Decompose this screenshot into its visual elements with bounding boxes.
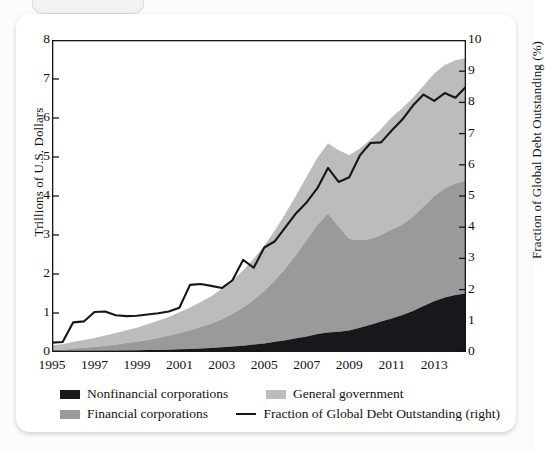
legend-swatch-icon [60,390,80,399]
x-axis-tick-label: 2013 [412,357,456,373]
legend-item-general-government[interactable]: General government [266,386,404,402]
legend-line-icon [236,413,256,415]
plot-area [52,40,466,352]
chart-legend: Nonfinancial corporations General govern… [60,384,500,424]
legend-label: General government [293,386,404,402]
figure-card: Trillions of U.S. Dollars Fraction of Gl… [16,14,516,432]
chart-figure: Trillions of U.S. Dollars Fraction of Gl… [16,14,516,432]
legend-label: Financial corporations [87,406,208,422]
legend-label: Nonfinancial corporations [87,386,228,402]
window-tab-stub[interactable] [32,0,144,14]
legend-item-nonfinancial-corporations[interactable]: Nonfinancial corporations [60,386,266,402]
x-axis-tick-label: 1997 [72,357,116,373]
legend-swatch-icon [266,390,286,399]
legend-row: Nonfinancial corporations General govern… [60,384,500,404]
x-axis-tick-label: 2001 [157,357,201,373]
x-axis-tick-label: 1995 [30,357,74,373]
x-axis-tick-label: 2011 [370,357,414,373]
legend-swatch-icon [60,410,80,419]
x-axis-tick-label: 2005 [242,357,286,373]
x-axis-tick-label: 2003 [200,357,244,373]
legend-item-financial-corporations[interactable]: Financial corporations [60,406,236,422]
legend-label: Fraction of Global Debt Outstanding (rig… [263,406,500,422]
x-axis-tick-label: 2009 [327,357,371,373]
legend-item-fraction-of-global-debt[interactable]: Fraction of Global Debt Outstanding (rig… [236,406,500,422]
x-axis-tick-label: 2007 [285,357,329,373]
x-axis-tick-label: 1999 [115,357,159,373]
y-axis-right-title: Fraction of Global Debt Outstanding (%) [529,35,545,265]
legend-row: Financial corporations Fraction of Globa… [60,404,500,424]
